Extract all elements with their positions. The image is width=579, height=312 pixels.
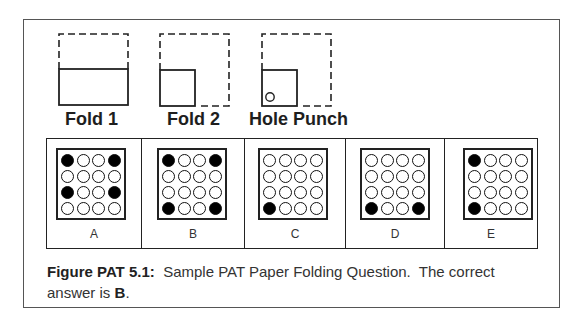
empty-hole-icon: [279, 154, 292, 167]
empty-hole-icon: [381, 170, 394, 183]
empty-hole-icon: [263, 154, 276, 167]
empty-hole-icon: [365, 154, 378, 167]
punched-hole-icon: [468, 154, 481, 167]
hole-punch-diagram-icon: [260, 32, 334, 110]
answer-option-a[interactable]: A: [47, 139, 142, 248]
empty-hole-icon: [484, 202, 497, 215]
answer-option-e[interactable]: E: [445, 139, 537, 248]
empty-hole-icon: [263, 186, 276, 199]
empty-hole-icon: [412, 186, 425, 199]
fold-2-diagram-icon: [158, 32, 232, 110]
empty-hole-icon: [484, 186, 497, 199]
punched-hole-icon: [468, 202, 481, 215]
empty-hole-icon: [279, 186, 292, 199]
hole-grid: [463, 148, 533, 220]
empty-hole-icon: [193, 154, 206, 167]
empty-hole-icon: [381, 154, 394, 167]
empty-hole-icon: [310, 154, 323, 167]
punched-hole-icon: [162, 154, 175, 167]
empty-hole-icon: [310, 202, 323, 215]
answer-option-d[interactable]: D: [346, 139, 445, 248]
empty-hole-icon: [108, 170, 121, 183]
empty-hole-icon: [396, 170, 409, 183]
empty-hole-icon: [484, 154, 497, 167]
answer-letter: D: [346, 227, 444, 241]
empty-hole-icon: [515, 170, 528, 183]
punched-hole-icon: [209, 154, 222, 167]
empty-hole-icon: [108, 202, 121, 215]
caption-answer: B: [115, 284, 126, 301]
punched-hole-icon: [365, 202, 378, 215]
empty-hole-icon: [178, 202, 191, 215]
punched-hole-icon: [108, 186, 121, 199]
empty-hole-icon: [515, 154, 528, 167]
empty-hole-icon: [77, 202, 90, 215]
punched-hole-icon: [412, 202, 425, 215]
empty-hole-icon: [310, 186, 323, 199]
step-label-fold-2: Fold 2: [167, 109, 220, 130]
empty-hole-icon: [515, 186, 528, 199]
empty-hole-icon: [61, 202, 74, 215]
empty-hole-icon: [468, 186, 481, 199]
empty-hole-icon: [92, 186, 105, 199]
empty-hole-icon: [209, 170, 222, 183]
empty-hole-icon: [294, 186, 307, 199]
empty-hole-icon: [162, 186, 175, 199]
answer-options: A B C D E: [46, 138, 538, 249]
answer-letter: B: [142, 227, 244, 241]
answer-letter: E: [445, 227, 537, 241]
empty-hole-icon: [92, 170, 105, 183]
empty-hole-icon: [412, 170, 425, 183]
empty-hole-icon: [499, 186, 512, 199]
empty-hole-icon: [178, 154, 191, 167]
empty-hole-icon: [294, 154, 307, 167]
empty-hole-icon: [193, 170, 206, 183]
punched-hole-icon: [263, 202, 276, 215]
empty-hole-icon: [193, 202, 206, 215]
empty-hole-icon: [178, 186, 191, 199]
caption-end: .: [125, 284, 129, 301]
answer-option-b[interactable]: B: [142, 139, 245, 248]
answer-letter: A: [47, 227, 141, 241]
empty-hole-icon: [92, 202, 105, 215]
punched-hole-icon: [162, 202, 175, 215]
empty-hole-icon: [499, 170, 512, 183]
punched-hole-icon: [61, 186, 74, 199]
empty-hole-icon: [365, 170, 378, 183]
answer-letter: C: [245, 227, 345, 241]
empty-hole-icon: [193, 186, 206, 199]
empty-hole-icon: [468, 170, 481, 183]
empty-hole-icon: [77, 170, 90, 183]
empty-hole-icon: [92, 154, 105, 167]
empty-hole-icon: [396, 154, 409, 167]
answer-option-c[interactable]: C: [245, 139, 346, 248]
empty-hole-icon: [294, 170, 307, 183]
empty-hole-icon: [396, 186, 409, 199]
empty-hole-icon: [209, 186, 222, 199]
caption-label: Figure PAT 5.1:: [47, 263, 155, 280]
empty-hole-icon: [279, 202, 292, 215]
hole-grid: [56, 148, 126, 220]
empty-hole-icon: [484, 170, 497, 183]
hole-grid: [360, 148, 430, 220]
empty-hole-icon: [279, 170, 292, 183]
empty-hole-icon: [294, 202, 307, 215]
empty-hole-icon: [310, 170, 323, 183]
empty-hole-icon: [263, 170, 276, 183]
punched-hole-icon: [209, 202, 222, 215]
empty-hole-icon: [178, 170, 191, 183]
empty-hole-icon: [381, 186, 394, 199]
empty-hole-icon: [77, 186, 90, 199]
empty-hole-icon: [412, 154, 425, 167]
empty-hole-icon: [499, 154, 512, 167]
empty-hole-icon: [61, 170, 74, 183]
hole-grid: [258, 148, 328, 220]
empty-hole-icon: [396, 202, 409, 215]
empty-hole-icon: [515, 202, 528, 215]
step-label-hole-punch: Hole Punch: [249, 109, 348, 130]
empty-hole-icon: [381, 202, 394, 215]
punched-hole-icon: [61, 154, 74, 167]
figure-caption: Figure PAT 5.1: Sample PAT Paper Folding…: [47, 261, 547, 303]
fold-1-diagram-icon: [57, 32, 131, 108]
empty-hole-icon: [499, 202, 512, 215]
